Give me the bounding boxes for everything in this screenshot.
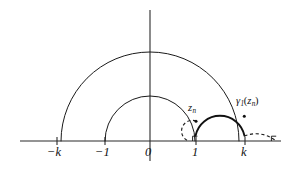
figure-container: −k −1 0 1 k zn γ1(zn) <box>0 0 291 182</box>
axis-label-zero: 0 <box>145 146 151 159</box>
axis-label-k: k <box>241 146 247 159</box>
axis-label-one: 1 <box>192 146 198 159</box>
point-label-gamma-arg-base: z <box>247 95 251 106</box>
point-label-zn-subscript: n <box>192 107 196 115</box>
point-label-gamma-arg-subscript: n <box>252 100 256 108</box>
point-label-gamma-close-paren: ) <box>255 95 259 106</box>
axis-label-neg-one: −1 <box>95 146 110 159</box>
point-marker-zn <box>195 120 198 123</box>
geodesic-arc-zn-to-gamma <box>196 116 245 136</box>
point-label-gamma-subscript: 1 <box>240 100 244 108</box>
point-marker-gamma-zn <box>243 115 246 118</box>
axis-label-neg-k: −k <box>47 146 61 159</box>
point-label-gamma-zn: γ1(zn) <box>236 96 258 107</box>
point-label-zn: zn <box>188 103 196 114</box>
